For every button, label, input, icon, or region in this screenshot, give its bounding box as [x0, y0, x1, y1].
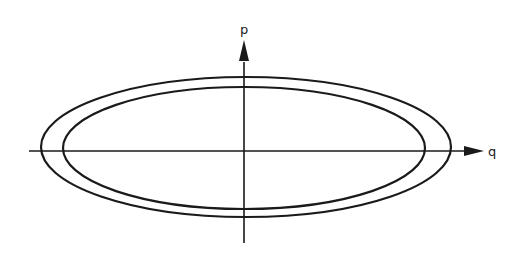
- p-axis-arrow-icon: [239, 40, 249, 61]
- p-axis-label: p: [240, 22, 248, 37]
- q-axis: [29, 146, 484, 156]
- q-axis-label: q: [488, 144, 496, 159]
- p-axis: [239, 40, 249, 243]
- outer-ellipse: [41, 77, 451, 217]
- phase-space-diagram: q p: [0, 0, 520, 254]
- q-axis-arrow-icon: [464, 146, 484, 156]
